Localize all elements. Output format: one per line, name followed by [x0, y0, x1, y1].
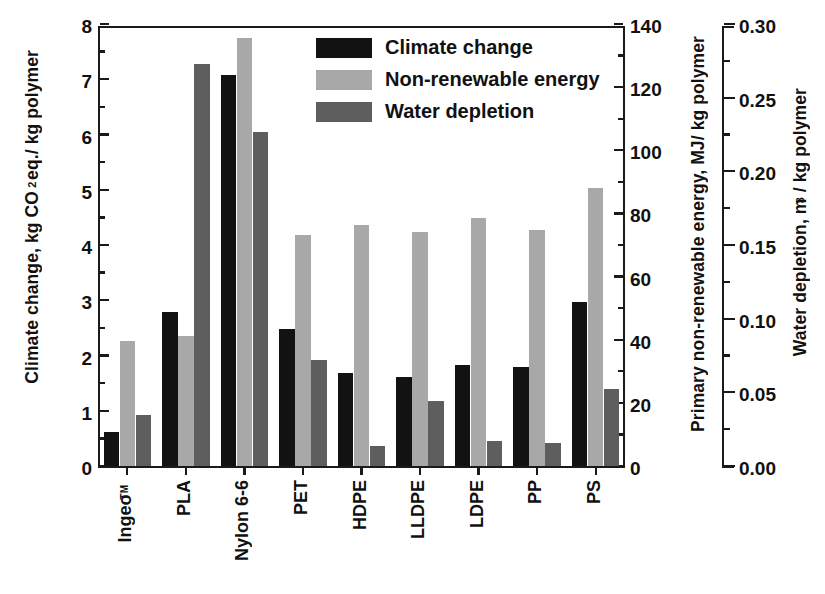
y-axis-right-spine: [722, 26, 734, 468]
y-axis-right-major-tick: [724, 318, 735, 320]
x-axis-label-hdpe: HDPE: [350, 480, 371, 530]
y-axis-left-tick-label: 8: [81, 17, 92, 36]
y-axis-right-minor-tick: [724, 428, 730, 430]
bar-non-renewable-energy[interactable]: [588, 188, 604, 466]
y-axis-left-title: Climate change, kg CO2 eq./ kg polymer: [22, 50, 43, 384]
x-axis-tick: [360, 466, 362, 475]
y-axis-left-tick-label: 4: [81, 238, 92, 257]
legend-item[interactable]: Water depletion: [316, 100, 600, 123]
bar-climate-change[interactable]: [396, 377, 412, 467]
x-axis-label-text: PET: [291, 480, 311, 515]
bar-non-renewable-energy[interactable]: [178, 336, 194, 466]
x-axis-label-text: Nylon 6-6: [232, 480, 252, 561]
bar-climate-change[interactable]: [279, 329, 295, 466]
y-axis-right-major-tick: [724, 465, 735, 467]
y-axis-right-major-tick: [724, 97, 735, 99]
x-axis-label-pla: PLA: [174, 480, 195, 516]
bar-climate-change[interactable]: [104, 432, 120, 466]
y-axis-left-tick-labels: 012345678: [60, 26, 92, 468]
y-axis-right-tick-label: 0.05: [739, 385, 776, 404]
bar-non-renewable-energy[interactable]: [295, 235, 311, 466]
bar-non-renewable-energy[interactable]: [120, 341, 136, 466]
bar-water-depletion[interactable]: [370, 446, 386, 466]
x-axis-label-text: PLA: [174, 480, 194, 516]
bar-climate-change[interactable]: [455, 365, 471, 466]
bar-water-depletion[interactable]: [428, 401, 444, 466]
x-axis-tick: [302, 466, 304, 475]
x-axis-tick: [477, 466, 479, 475]
y-axis-right-tick-label: 0.20: [739, 164, 776, 183]
y-axis-right-minor-tick: [724, 354, 730, 356]
x-axis-tick: [419, 466, 421, 475]
bar-water-depletion[interactable]: [604, 389, 620, 466]
y-axis-mid-tick-label: 20: [630, 395, 651, 414]
legend-label: Water depletion: [385, 100, 534, 123]
y-axis-right-tick-label: 0.15: [739, 238, 776, 257]
y-axis-right-minor-tick: [724, 60, 730, 62]
x-axis-tick: [243, 466, 245, 475]
x-axis-tick-labels: IngeoTMPLANylon 6-6PETHDPELLDPELDPEPPPS: [98, 480, 625, 590]
bar-water-depletion[interactable]: [136, 415, 152, 466]
y-axis-mid-major-tick: [614, 23, 623, 25]
y-axis-left-title-part-b: eq./ kg polymer: [22, 50, 42, 185]
bar-climate-change[interactable]: [338, 373, 354, 466]
y-axis-mid-tick-label: 60: [630, 269, 651, 288]
y-axis-left-tick-label: 3: [81, 293, 92, 312]
x-axis-label-pp: PP: [525, 480, 546, 504]
bar-climate-change[interactable]: [572, 302, 588, 466]
bar-non-renewable-energy[interactable]: [471, 218, 487, 466]
y-axis-mid-tick-label: 100: [630, 143, 662, 162]
legend-item[interactable]: Non-renewable energy: [316, 68, 600, 91]
x-axis-tick: [126, 466, 128, 475]
x-axis-label-text: HDPE: [350, 480, 370, 530]
x-axis-label-nylon-6-6: Nylon 6-6: [232, 480, 253, 561]
y-axis-mid-title: Primary non-renewable energy, MJ/ kg pol…: [688, 36, 709, 432]
legend-label: Climate change: [385, 36, 533, 59]
figure-bar-chart: Climate change, kg CO2 eq./ kg polymer P…: [0, 0, 825, 594]
y-axis-right-major-tick: [724, 23, 735, 25]
bar-non-renewable-energy[interactable]: [354, 225, 370, 466]
x-axis-label-ingeo: IngeoTM: [115, 480, 136, 542]
bar-climate-change[interactable]: [162, 312, 178, 466]
y-axis-mid-tick-label: 40: [630, 332, 651, 351]
y-axis-right-minor-tick: [724, 281, 730, 283]
x-axis-label-ps: PS: [584, 480, 605, 504]
y-axis-right-tick-label: 0.25: [739, 90, 776, 109]
trademark-superscript: TM: [119, 485, 130, 499]
y-axis-mid-tick-label: 0: [630, 459, 641, 478]
x-axis-tick: [536, 466, 538, 475]
bar-non-renewable-energy[interactable]: [412, 232, 428, 466]
y-axis-mid-tick-label: 140: [630, 17, 662, 36]
legend-swatch-icon: [316, 38, 372, 58]
legend-swatch-icon: [316, 102, 372, 122]
y-axis-left-tick-label: 7: [81, 72, 92, 91]
y-axis-left-title-subscript: 2: [26, 182, 38, 188]
legend-item[interactable]: Climate change: [316, 36, 600, 59]
bar-non-renewable-energy[interactable]: [529, 230, 545, 466]
bar-group: [162, 28, 210, 466]
bar-group: [104, 28, 152, 466]
x-axis-label-lldpe: LLDPE: [408, 480, 429, 539]
y-axis-right-major-tick: [724, 391, 735, 393]
x-axis-label-text: LLDPE: [408, 480, 428, 539]
bar-climate-change[interactable]: [513, 367, 529, 466]
bar-water-depletion[interactable]: [311, 360, 327, 466]
y-axis-left-tick-label: 0: [81, 459, 92, 478]
y-axis-right-minor-tick: [724, 133, 730, 135]
y-axis-left-tick-label: 1: [81, 403, 92, 422]
y-axis-left-title-part-a: Climate change, kg CO: [22, 191, 42, 384]
bar-water-depletion[interactable]: [545, 443, 561, 466]
bar-water-depletion[interactable]: [487, 441, 503, 466]
x-axis-tick: [595, 466, 597, 475]
y-axis-right-tick-label: 0.10: [739, 311, 776, 330]
y-axis-left-tick-label: 2: [81, 348, 92, 367]
bar-climate-change[interactable]: [221, 75, 237, 466]
y-axis-right-minor-tick: [724, 207, 730, 209]
bar-water-depletion[interactable]: [194, 64, 210, 466]
legend-swatch-icon: [316, 70, 372, 90]
y-axis-right-tick-label: 0.00: [739, 459, 776, 478]
bar-water-depletion[interactable]: [253, 132, 269, 466]
legend: Climate changeNon-renewable energyWater …: [316, 36, 600, 123]
y-axis-left-major-tick: [100, 23, 109, 25]
bar-non-renewable-energy[interactable]: [237, 38, 253, 466]
